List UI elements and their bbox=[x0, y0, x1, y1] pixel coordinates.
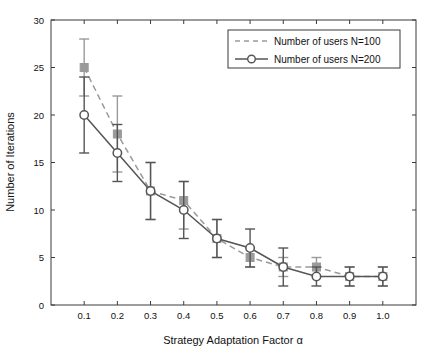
x-tick-label: 0.8 bbox=[310, 310, 323, 321]
series-line bbox=[84, 68, 383, 277]
x-tick-label: 0.2 bbox=[111, 310, 124, 321]
data-point-marker bbox=[213, 234, 221, 242]
y-tick-label: 15 bbox=[33, 157, 44, 168]
data-point-marker bbox=[312, 272, 320, 280]
data-point-marker bbox=[146, 187, 154, 195]
data-point-marker bbox=[279, 263, 287, 271]
y-tick-label: 25 bbox=[33, 62, 44, 73]
data-point-marker bbox=[80, 111, 88, 119]
y-tick-label: 0 bbox=[39, 300, 44, 311]
data-point-marker bbox=[113, 149, 121, 157]
data-point-marker bbox=[180, 206, 188, 214]
x-tick-label: 0.5 bbox=[210, 310, 223, 321]
data-point-marker bbox=[345, 272, 353, 280]
chart-legend[interactable]: Number of users N=100Number of users N=2… bbox=[228, 30, 400, 68]
x-tick-label: 0.4 bbox=[177, 310, 190, 321]
x-tick-labels: 0.10.20.30.40.50.60.70.80.91.0 bbox=[78, 310, 390, 321]
data-series-group bbox=[79, 39, 388, 286]
legend-label: Number of users N=200 bbox=[274, 54, 381, 65]
series-2 bbox=[79, 77, 388, 286]
x-tick-label: 1.0 bbox=[376, 310, 389, 321]
y-tick-label: 5 bbox=[39, 252, 44, 263]
legend-marker bbox=[248, 55, 256, 63]
figure-container: 0.10.20.30.40.50.60.70.80.91.0 051015202… bbox=[0, 0, 435, 353]
y-axis-title: Number of Iterations bbox=[4, 112, 16, 212]
x-axis-title: Strategy Adaptation Factor α bbox=[163, 334, 303, 346]
legend-label: Number of users N=100 bbox=[274, 36, 381, 47]
y-tick-labels: 051015202530 bbox=[33, 15, 44, 311]
x-tick-label: 0.7 bbox=[277, 310, 290, 321]
data-point-marker bbox=[80, 64, 88, 72]
y-tick-label: 20 bbox=[33, 110, 44, 121]
y-tick-label: 10 bbox=[33, 205, 44, 216]
data-point-marker bbox=[246, 244, 254, 252]
chart-canvas: 0.10.20.30.40.50.60.70.80.91.0 051015202… bbox=[0, 0, 435, 353]
data-point-marker bbox=[379, 272, 387, 280]
x-tick-label: 0.3 bbox=[144, 310, 157, 321]
x-tick-label: 0.1 bbox=[78, 310, 91, 321]
x-tick-label: 0.6 bbox=[243, 310, 256, 321]
y-tick-label: 30 bbox=[33, 15, 44, 26]
x-tick-label: 0.9 bbox=[343, 310, 356, 321]
series-line bbox=[84, 115, 383, 277]
